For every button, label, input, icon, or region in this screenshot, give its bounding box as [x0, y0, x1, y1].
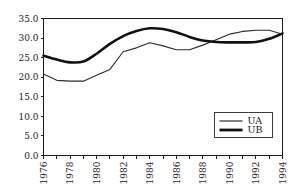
- x-tick-label: 1982: [119, 162, 129, 185]
- x-tick-label: 1980: [92, 161, 102, 184]
- legend-box: [215, 113, 273, 138]
- x-tick-label: 1990: [225, 161, 235, 184]
- y-tick-label: 15.0: [18, 92, 38, 102]
- chart-figure: 0.05.010.015.020.025.030.035.0 197619781…: [0, 0, 304, 189]
- x-tick-label: 1988: [198, 161, 208, 184]
- y-tick-label: 25.0: [18, 53, 38, 63]
- x-tick-label: 1986: [172, 161, 182, 184]
- chart-legend: UA UB: [215, 113, 273, 138]
- y-tick-label: 20.0: [18, 72, 38, 82]
- x-tick-label: 1976: [39, 161, 49, 184]
- legend-label-ub: UB: [248, 124, 263, 135]
- y-tick-label: 10.0: [18, 112, 38, 122]
- line-chart: 0.05.010.015.020.025.030.035.0 197619781…: [0, 0, 304, 189]
- y-tick-label: 35.0: [18, 14, 38, 24]
- y-tick-label: 30.0: [18, 33, 38, 43]
- x-tick-label: 1984: [145, 161, 155, 184]
- y-tick-label: 5.0: [24, 131, 39, 141]
- y-tick-label: 0.0: [24, 151, 39, 161]
- x-tick-label: 1994: [278, 161, 288, 184]
- x-tick-label: 1992: [251, 162, 261, 185]
- x-tick-label: 1978: [65, 161, 75, 184]
